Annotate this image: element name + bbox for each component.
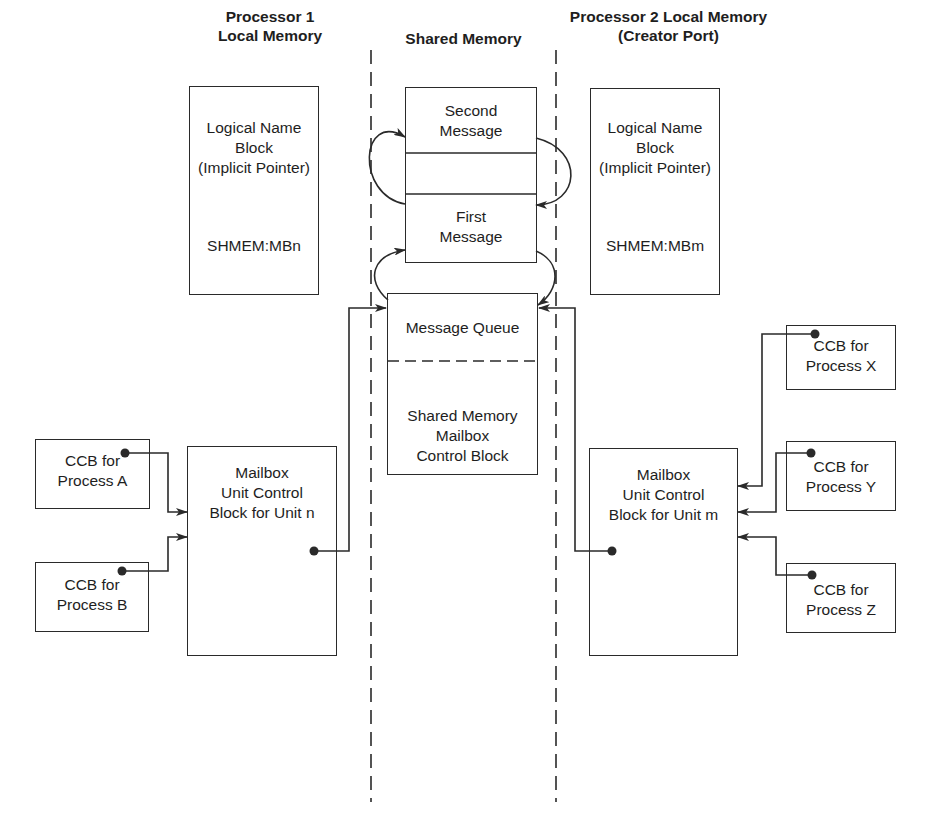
control-block-label: Shared Memory Mailbox Control Block (387, 406, 538, 465)
arrow-second-to-first-right (536, 138, 571, 205)
ccb-process-a-label: CCB for Process A (35, 451, 150, 491)
first-message-label: First Message (405, 207, 537, 247)
p1-logical-name-value: SHMEM:MBn (189, 236, 319, 256)
second-message-label: Second Message (405, 101, 537, 141)
p1-logical-name-title: Logical Name Block (Implicit Pointer) (189, 118, 319, 177)
p2-logical-name-title: Logical Name Block (Implicit Pointer) (590, 118, 720, 177)
header-shared-memory: Shared Memory (376, 29, 551, 48)
header-processor-2: Processor 2 Local Memory (Creator Port) (556, 7, 781, 46)
ccb-process-b-label: CCB for Process B (35, 575, 149, 615)
message-queue-label: Message Queue (387, 318, 538, 338)
mailbox-diagram: Processor 1 Local Memory Shared Memory P… (0, 0, 928, 837)
ccb-process-x-label: CCB for Process X (786, 336, 896, 376)
p2-mailbox-ucb-label: Mailbox Unit Control Block for Unit m (589, 465, 738, 524)
header-processor-1: Processor 1 Local Memory (195, 7, 345, 46)
ccb-process-z-label: CCB for Process Z (786, 580, 896, 620)
ccb-process-y-label: CCB for Process Y (786, 457, 896, 497)
p2-logical-name-value: SHMEM:MBm (590, 236, 720, 256)
arrow-first-to-queue-right (536, 251, 555, 305)
arrow-first-to-second-left (369, 132, 405, 204)
p1-mailbox-ucb-label: Mailbox Unit Control Block for Unit n (187, 463, 337, 522)
